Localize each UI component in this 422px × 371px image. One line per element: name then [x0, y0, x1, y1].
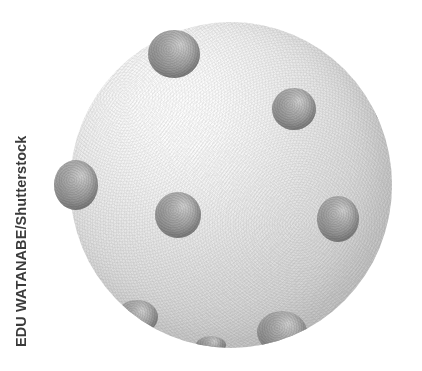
receptor-bottom-right [257, 311, 307, 353]
receptor-top-right [272, 88, 316, 130]
illustration-canvas: EDU WATANABE/Shutterstock [0, 0, 422, 371]
photo-credit: EDU WATANABE/Shutterstock [0, 0, 42, 371]
photo-credit-text: EDU WATANABE/Shutterstock [0, 136, 42, 371]
receptor-bottom-left [116, 300, 158, 334]
receptor-top-left [148, 30, 200, 78]
virus-particle-illustration [0, 0, 422, 371]
receptor-mid-right [317, 196, 359, 242]
receptor-lower-mid [196, 336, 226, 354]
receptor-center [155, 192, 201, 238]
virus-capsid-sphere [70, 22, 392, 348]
receptor-right-edge [374, 86, 400, 124]
receptor-left-edge [54, 160, 98, 210]
